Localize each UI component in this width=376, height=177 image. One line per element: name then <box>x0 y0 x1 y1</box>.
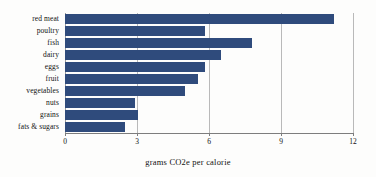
bar-fish <box>65 38 252 48</box>
bar-fats-and-sugars <box>65 122 125 132</box>
category-label: red meat <box>0 13 62 25</box>
category-label: vegetables <box>0 85 62 97</box>
x-axis-title: grams CO2e per calorie <box>0 157 376 167</box>
category-label: fats & sugars <box>0 121 62 133</box>
bar-row <box>65 73 353 85</box>
x-tick-label: 12 <box>343 137 363 146</box>
x-tick-mark <box>281 133 282 136</box>
bar-vegetables <box>65 86 185 96</box>
category-label: nuts <box>0 97 62 109</box>
x-tick-label: 3 <box>127 137 147 146</box>
bar-eggs <box>65 62 205 72</box>
bar-dairy <box>65 50 221 60</box>
bar-row <box>65 121 353 133</box>
x-tick-mark <box>65 133 66 136</box>
bar-row <box>65 61 353 73</box>
bar-nuts <box>65 98 135 108</box>
category-label: grains <box>0 109 62 121</box>
bar-row <box>65 25 353 37</box>
x-tick-mark <box>137 133 138 136</box>
bar-row <box>65 49 353 61</box>
category-label: dairy <box>0 49 62 61</box>
bar-row <box>65 109 353 121</box>
bar-row <box>65 97 353 109</box>
category-axis-labels: red meat poultry fish dairy eggs fruit v… <box>0 13 62 133</box>
x-tick-label: 9 <box>271 137 291 146</box>
bar-row <box>65 85 353 97</box>
gridline-12 <box>353 13 354 133</box>
category-label: eggs <box>0 61 62 73</box>
bar-grains <box>65 110 138 120</box>
bar-fruit <box>65 74 198 84</box>
category-label: poultry <box>0 25 62 37</box>
bar-chart-figure: red meat poultry fish dairy eggs fruit v… <box>0 0 376 177</box>
x-tick-label: 0 <box>55 137 75 146</box>
bar-row <box>65 37 353 49</box>
bar-row <box>65 13 353 25</box>
bar-red-meat <box>65 14 334 24</box>
x-tick-mark <box>209 133 210 136</box>
category-label: fruit <box>0 73 62 85</box>
x-tick-label: 6 <box>199 137 219 146</box>
bar-poultry <box>65 26 205 36</box>
bar-series <box>65 13 353 133</box>
category-label: fish <box>0 37 62 49</box>
plot-area <box>65 13 353 133</box>
x-tick-mark <box>353 133 354 136</box>
